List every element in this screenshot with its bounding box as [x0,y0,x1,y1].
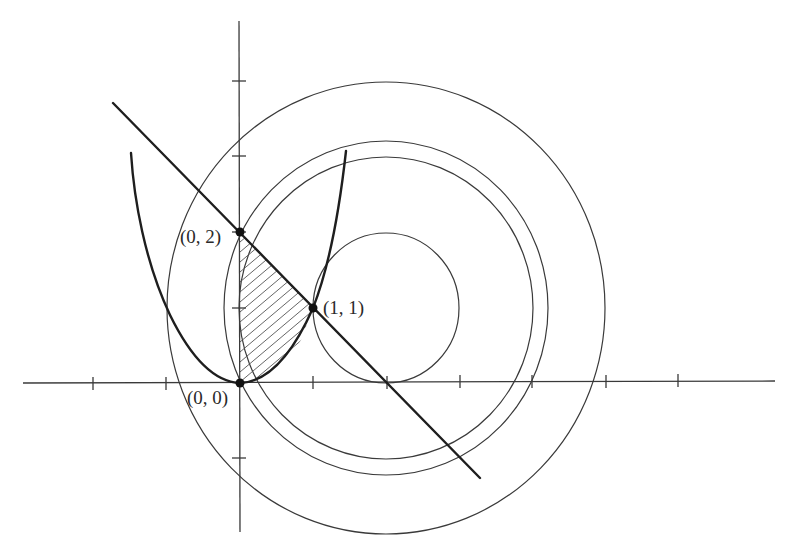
axes [23,21,775,532]
label-point-0-0: (0, 0) [187,387,228,409]
circle-radius-sqrt5 [224,141,548,475]
label-point-1-1: (1, 1) [323,297,364,319]
x-axis [23,381,775,383]
parabola-curve [131,151,346,383]
point-0-0 [236,379,245,388]
y-axis [239,21,240,532]
point-0-2 [236,228,245,237]
math-diagram: (0, 2) (1, 1) (0, 0) [0,0,791,560]
label-point-0-2: (0, 2) [180,226,221,248]
point-1-1 [309,304,318,313]
circle-radius-2 [239,157,533,459]
shaded-region [240,124,380,392]
